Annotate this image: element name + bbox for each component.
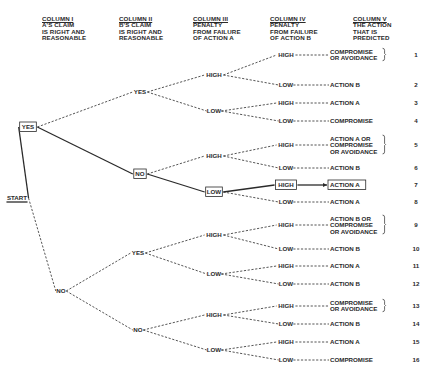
outcome-number: 8 xyxy=(414,198,418,205)
node-c3_8: LOW xyxy=(207,346,222,353)
node-label: START xyxy=(7,194,27,201)
dashed-branch xyxy=(221,342,276,350)
node-label: LOW xyxy=(207,270,222,277)
dashed-branch xyxy=(147,156,204,174)
node-c3_4: LOW xyxy=(206,187,223,197)
node-label: HIGH xyxy=(206,311,222,318)
decision-tree: STARTYESNOYESNOYESNOHIGHLOWHIGHLOWHIGHLO… xyxy=(0,0,433,374)
node-label: NO xyxy=(56,287,65,294)
node-label: YES xyxy=(134,88,146,95)
dashed-branch xyxy=(223,315,278,324)
dashed-branch xyxy=(147,92,206,111)
dashed-branch xyxy=(145,253,206,274)
penalty-b-label: LOW xyxy=(279,164,294,171)
outcome-row-4: LOWCOMPROMISE4 xyxy=(221,111,418,124)
penalty-b-label: LOW xyxy=(279,320,294,327)
brace-icon xyxy=(383,48,386,60)
outcome-row-2: LOWACTION B2 xyxy=(223,75,418,88)
node-label: YES xyxy=(132,249,144,256)
node-label: YES xyxy=(22,123,34,130)
node-c3_1: HIGH xyxy=(206,71,222,78)
outcome-number: 3 xyxy=(414,99,418,106)
penalty-b-label: LOW xyxy=(279,198,294,205)
outcome-row-1: HIGHCOMPROMISEOR AVOIDANCE1 xyxy=(223,48,418,75)
outcome-row-5: HIGHACTION A ORCOMPROMISEOR AVOIDANCE5 xyxy=(223,135,418,156)
dashed-branch xyxy=(147,75,204,92)
node-c3_6: LOW xyxy=(207,270,222,277)
brace-icon xyxy=(383,135,386,154)
solid-branch xyxy=(223,185,274,192)
predicted-action-line: COMPROMISE xyxy=(330,356,373,363)
node-c2_nn: NO xyxy=(133,326,142,333)
node-c2_yy: YES xyxy=(134,88,146,95)
brace-icon xyxy=(383,215,386,234)
predicted-action-line: ACTION B xyxy=(330,245,360,252)
node-label: LOW xyxy=(207,188,222,195)
outcome-number: 9 xyxy=(414,221,418,228)
outcome-number: 7 xyxy=(414,181,418,188)
outcome-number: 13 xyxy=(413,302,420,309)
penalty-b-label: HIGH xyxy=(278,338,294,345)
dashed-branch xyxy=(223,75,278,85)
predicted-action-line: OR AVOIDANCE xyxy=(330,54,377,61)
node-label: HIGH xyxy=(206,152,222,159)
dashed-branch xyxy=(37,92,132,127)
arrow-head-icon xyxy=(323,183,327,187)
outcome-number: 15 xyxy=(413,338,420,345)
dashed-branch xyxy=(145,235,204,253)
tree-nodes: STARTYESNOYESNOYESNOHIGHLOWHIGHLOWHIGHLO… xyxy=(6,71,222,353)
penalty-b-label: LOW xyxy=(279,117,294,124)
outcome-number: 10 xyxy=(413,245,420,252)
outcome-number: 5 xyxy=(414,141,418,148)
penalty-b-label: HIGH xyxy=(278,141,294,148)
node-c2_ny: YES xyxy=(132,249,144,256)
dashed-branch xyxy=(223,235,278,249)
dashed-branch xyxy=(221,274,278,284)
dashed-branch xyxy=(223,156,278,168)
penalty-b-label: HIGH xyxy=(278,181,294,188)
outcome-number: 14 xyxy=(413,320,420,327)
node-c3_2: LOW xyxy=(207,107,222,114)
predicted-action-line: ACTION A xyxy=(330,99,360,106)
predicted-action-line: ACTION A xyxy=(330,181,360,188)
node-c1_yes: YES xyxy=(20,122,37,132)
penalty-b-label: HIGH xyxy=(278,51,294,58)
predicted-action-line: OR AVOIDANCE xyxy=(330,148,377,155)
penalty-b-label: HIGH xyxy=(278,302,294,309)
node-c3_5: HIGH xyxy=(206,231,222,238)
dashed-branch xyxy=(221,111,278,121)
predicted-action-line: ACTION B xyxy=(330,320,360,327)
dashed-branch xyxy=(223,225,276,235)
solid-branch xyxy=(147,174,204,192)
node-label: NO xyxy=(133,326,142,333)
outcome-row-13: HIGHCOMPROMISEOR AVOIDANCE13 xyxy=(223,299,420,315)
outcome-row-8: LOWACTION A8 xyxy=(223,192,418,205)
dashed-branch xyxy=(66,291,133,330)
outcome-row-9: HIGHACTION B ORCOMPROMISEOR AVOIDANCE9 xyxy=(223,215,418,235)
outcome-row-10: LOWACTION B10 xyxy=(223,235,420,252)
penalty-b-label: HIGH xyxy=(278,99,294,106)
dashed-branch xyxy=(221,266,276,274)
predicted-action-line: ACTION B xyxy=(330,164,360,171)
outcome-row-12: LOWACTION B12 xyxy=(221,274,420,287)
dashed-branch xyxy=(221,350,278,360)
outcome-number: 12 xyxy=(413,280,420,287)
dashed-branch xyxy=(143,330,206,350)
outcome-row-16: LOWCOMPROMISE16 xyxy=(221,350,420,363)
node-c2_yn: NO xyxy=(134,169,146,179)
penalty-b-label: LOW xyxy=(279,81,294,88)
dashed-branch xyxy=(143,315,204,330)
predicted-action-line: ACTION A xyxy=(330,262,360,269)
outcome-number: 6 xyxy=(414,164,418,171)
node-label: HIGH xyxy=(206,231,222,238)
outcome-row-14: LOWACTION B14 xyxy=(223,315,420,327)
penalty-b-label: LOW xyxy=(279,356,294,363)
outcome-row-7: HIGHACTION A7 xyxy=(223,180,418,192)
predicted-action-line: ACTION A xyxy=(330,198,360,205)
node-label: LOW xyxy=(207,107,222,114)
solid-branch xyxy=(19,127,29,198)
dashed-branch xyxy=(221,103,276,111)
outcome-number: 4 xyxy=(414,117,418,124)
predicted-action-line: OR AVOIDANCE xyxy=(330,228,377,235)
outcome-row-6: LOWACTION B6 xyxy=(223,156,418,171)
